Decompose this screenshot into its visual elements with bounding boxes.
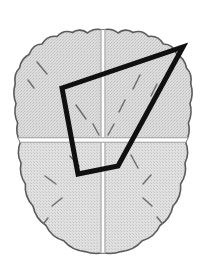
figure-root: Axial brain schematic with quadrilateral…	[0, 0, 207, 274]
brain-body	[0, 0, 207, 274]
transverse-divider	[10, 138, 197, 143]
brain-diagram-svg	[0, 0, 207, 274]
